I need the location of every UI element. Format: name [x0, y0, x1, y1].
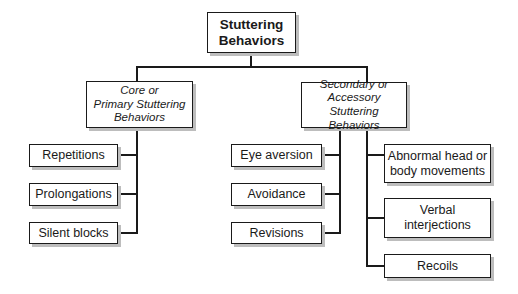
node-recoils: Recoils: [384, 254, 491, 278]
node-secondary-accessory-behaviors: Secondary or Accessory Stuttering Behavi…: [301, 82, 407, 128]
node-silent-blocks: Silent blocks: [29, 222, 118, 244]
connector-primary-stem: [136, 128, 138, 234]
node-prolongations: Prolongations: [29, 183, 118, 206]
connector-primary-drop: [136, 66, 138, 82]
node-core-primary-behaviors: Core or Primary Stuttering Behaviors: [86, 81, 193, 128]
connector-prolongations: [117, 193, 138, 195]
node-revisions: Revisions: [231, 222, 322, 244]
connector-repetitions: [117, 154, 138, 156]
connector-avoidance: [321, 193, 341, 195]
connector-verbal-interjections: [367, 217, 385, 219]
connector-secondary-left-stem: [339, 128, 341, 234]
stuttering-behaviors-flowchart: Stuttering Behaviors Core or Primary Stu…: [0, 0, 518, 294]
connector-silent-blocks: [117, 232, 138, 234]
node-verbal-interjections: Verbal interjections: [384, 198, 491, 238]
node-eye-aversion: Eye aversion: [231, 144, 322, 167]
connector-recoils: [367, 265, 385, 267]
connector-root-stem: [250, 52, 252, 67]
connector-revisions: [321, 232, 341, 234]
node-repetitions: Repetitions: [29, 144, 118, 167]
connector-main-horizontal: [136, 66, 368, 68]
node-avoidance: Avoidance: [231, 183, 322, 206]
connector-eye-aversion: [321, 154, 341, 156]
node-abnormal-head-body-movements: Abnormal head or body movements: [384, 144, 491, 183]
node-stuttering-behaviors: Stuttering Behaviors: [207, 12, 296, 53]
connector-abnormal-movements: [367, 154, 385, 156]
connector-secondary-right-stem: [366, 128, 368, 267]
